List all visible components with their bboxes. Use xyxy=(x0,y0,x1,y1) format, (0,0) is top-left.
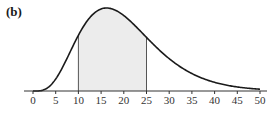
x-tick-label: 10 xyxy=(73,94,85,106)
x-tick-label: 25 xyxy=(141,94,153,106)
x-tick-label: 20 xyxy=(118,94,130,106)
x-tick-label: 45 xyxy=(232,94,244,106)
x-tick-label: 5 xyxy=(53,94,59,106)
density-chart: 05101520253035404550 xyxy=(0,0,275,113)
x-axis-ticks: 05101520253035404550 xyxy=(30,91,266,106)
x-tick-label: 30 xyxy=(164,94,176,106)
x-tick-label: 35 xyxy=(186,94,198,106)
shaded-area xyxy=(78,8,146,91)
x-tick-label: 40 xyxy=(209,94,221,106)
x-tick-label: 0 xyxy=(30,94,36,106)
x-tick-label: 15 xyxy=(96,94,108,106)
x-tick-label: 50 xyxy=(255,94,267,106)
